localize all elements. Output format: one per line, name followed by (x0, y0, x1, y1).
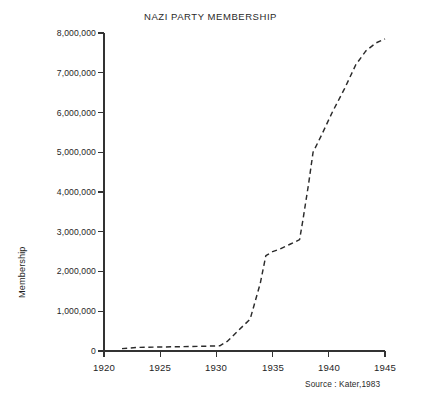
membership-series-line (122, 39, 385, 349)
chart-figure: NAZI PARTY MEMBERSHIP 8,000,000 7,000,00… (0, 0, 421, 405)
source-note: Source : Kater,1983 (305, 379, 380, 389)
plot-area (0, 0, 421, 405)
y-axis-ticks (98, 33, 104, 351)
x-axis-ticks (104, 351, 385, 357)
